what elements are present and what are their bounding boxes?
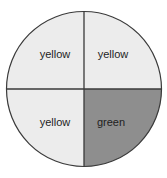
quadrant-label-top-right: yellow [98, 48, 129, 60]
quadrant-label-top-left: yellow [40, 48, 71, 60]
quartered-circle-diagram: yellow yellow yellow green [0, 0, 167, 178]
quadrant-label-bottom-left: yellow [40, 116, 71, 128]
quadrant-label-bottom-right: green [97, 116, 125, 128]
